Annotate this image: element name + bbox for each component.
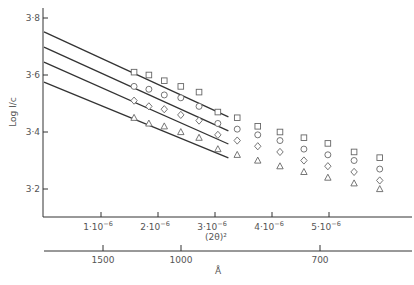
circle-marker <box>351 158 357 164</box>
triangle-marker <box>377 186 383 192</box>
square-marker <box>234 115 240 121</box>
data-markers <box>131 69 383 191</box>
circle-marker <box>377 166 383 172</box>
y-tick-label: 3·8 <box>26 13 41 23</box>
y-axis-label: Log I/c <box>8 97 18 127</box>
square-marker <box>301 135 307 141</box>
diamond-marker <box>146 103 152 110</box>
circle-marker <box>325 152 331 158</box>
circle-marker <box>277 138 283 144</box>
square-marker <box>161 78 167 84</box>
secondary-x-tick-label: 1500 <box>92 255 115 265</box>
square-marker <box>131 69 137 75</box>
y-tick-label: 3·4 <box>26 127 41 137</box>
circle-marker <box>131 83 137 89</box>
triangle-marker <box>146 120 152 126</box>
circle-marker <box>234 126 240 132</box>
triangle-marker <box>131 114 137 120</box>
diamond-marker <box>178 111 184 118</box>
diamond-marker <box>161 106 167 113</box>
circle-marker <box>146 86 152 92</box>
square-marker <box>351 149 357 155</box>
diamond-marker <box>325 163 331 170</box>
circle-marker <box>215 120 221 126</box>
triangle-marker <box>161 123 167 129</box>
square-marker <box>377 155 383 161</box>
circle-marker <box>178 95 184 101</box>
x-axis-label: (2θ)² <box>205 232 227 242</box>
square-marker <box>277 129 283 135</box>
triangle-marker <box>351 180 357 186</box>
x-tick-label: 5·10−6 <box>311 220 341 232</box>
square-marker <box>146 72 152 78</box>
diamond-marker <box>255 143 261 150</box>
square-marker <box>196 89 202 95</box>
x-tick-label: 4·10−6 <box>254 220 284 232</box>
square-marker <box>255 124 261 130</box>
square-marker <box>215 109 221 115</box>
circle-marker <box>196 103 202 109</box>
y-tick-label: 3·6 <box>26 70 41 80</box>
x-tick-label: 2·10−6 <box>140 220 170 232</box>
triangle-marker <box>325 174 331 180</box>
square-marker <box>325 141 331 147</box>
secondary-x-tick-label: 1000 <box>170 255 193 265</box>
circle-marker <box>161 92 167 98</box>
diamond-marker <box>215 131 221 138</box>
diamond-marker <box>301 157 307 164</box>
secondary-x-axis-label: Å <box>215 265 222 276</box>
x-tick-label: 1·10−6 <box>83 220 113 232</box>
x-tick-label: 3·10−6 <box>197 220 227 232</box>
square-marker <box>178 84 184 90</box>
triangle-marker <box>196 134 202 140</box>
secondary-x-tick-label: 700 <box>311 255 328 265</box>
diamond-marker <box>277 148 283 155</box>
diamond-marker <box>234 137 240 144</box>
triangle-marker <box>215 146 221 152</box>
triangle-marker <box>301 169 307 175</box>
diamond-marker <box>351 168 357 175</box>
diamond-marker <box>377 177 383 184</box>
chart: 3·83·63·43·21·10−62·10−63·10−64·10−65·10… <box>0 0 414 285</box>
triangle-marker <box>255 157 261 163</box>
triangle-marker <box>277 163 283 169</box>
y-tick-label: 3·2 <box>26 184 40 194</box>
circle-marker <box>255 132 261 138</box>
circle-marker <box>301 146 307 152</box>
triangle-marker <box>234 151 240 157</box>
triangle-marker <box>178 129 184 135</box>
